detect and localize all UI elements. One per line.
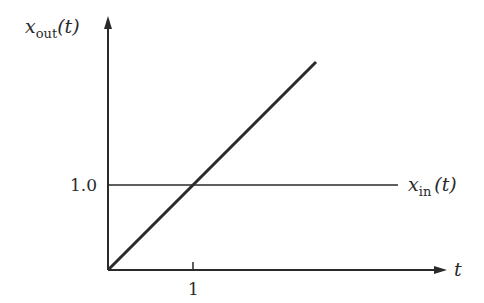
y-tick-label: 1.0	[70, 175, 97, 195]
reference-label: xin(t)	[408, 173, 457, 199]
x-axis-label: t	[454, 258, 462, 280]
y-axis-label: xout(t)	[25, 15, 80, 41]
x-axis-arrow-icon	[434, 266, 447, 274]
x-tick-label: 1	[188, 279, 199, 299]
ramp-response-diagram: xout(t) 1.0 1 xin(t) t	[0, 0, 484, 303]
y-axis-arrow-icon	[104, 16, 112, 29]
x-out-ramp-line	[108, 62, 316, 270]
